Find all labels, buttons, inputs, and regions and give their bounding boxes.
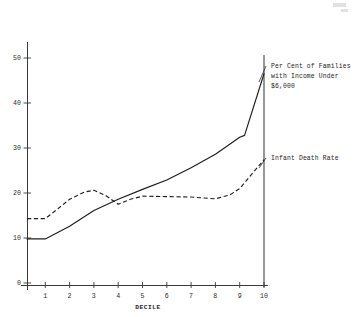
- x-tick-label-2: 2: [68, 293, 72, 300]
- line-chart-figure: 50 40 30 20 10 0 1 2 3 4 5 6 7: [0, 0, 354, 317]
- y-tick-label-20: 20: [13, 190, 21, 197]
- series-infant-death-rate-line: [27, 160, 264, 219]
- y-tick-label-40: 40: [13, 100, 21, 107]
- x-tick-label-10: 10: [260, 293, 268, 300]
- scan-artifact-speck-secondary: [341, 9, 348, 12]
- annotation-families-line-2: with Income Under: [271, 73, 339, 80]
- leader-infant: [259, 158, 266, 168]
- scan-artifact-speck: [333, 3, 346, 7]
- y-tick-label-50: 50: [13, 55, 21, 62]
- y-tick-label-30: 30: [13, 145, 21, 152]
- x-tick-label-group: 1 2 3 4 5 6 7 8 9 10: [43, 293, 268, 300]
- annotation-infant-line-1: Infant Death Rate: [271, 155, 339, 162]
- axis-group: [21, 42, 268, 290]
- y-tick-label-0: 0: [17, 280, 21, 287]
- x-tick-label-6: 6: [165, 293, 169, 300]
- annotation-leaders: [259, 66, 266, 168]
- x-tick-label-9: 9: [238, 293, 242, 300]
- x-tick-label-1: 1: [43, 293, 47, 300]
- x-tick-label-3: 3: [92, 293, 96, 300]
- annotation-families-line-1: Per Cent of Families: [271, 63, 351, 70]
- y-tick-label-group: 50 40 30 20 10 0: [13, 55, 21, 287]
- y-tick-label-10: 10: [13, 235, 21, 242]
- annotation-families-line-3: $6,000: [271, 83, 295, 90]
- x-tick-label-8: 8: [213, 293, 217, 300]
- x-tick-label-4: 4: [116, 293, 120, 300]
- annotation-infant-death-rate: Infant Death Rate: [271, 155, 339, 162]
- x-tick-label-7: 7: [189, 293, 193, 300]
- chart-container: 50 40 30 20 10 0 1 2 3 4 5 6 7: [0, 0, 354, 317]
- x-tick-label-5: 5: [140, 293, 144, 300]
- x-axis-title: DECILE: [135, 304, 160, 311]
- annotation-percent-families: Per Cent of Families with Income Under $…: [271, 63, 351, 90]
- series-percent-families-line: [27, 74, 264, 239]
